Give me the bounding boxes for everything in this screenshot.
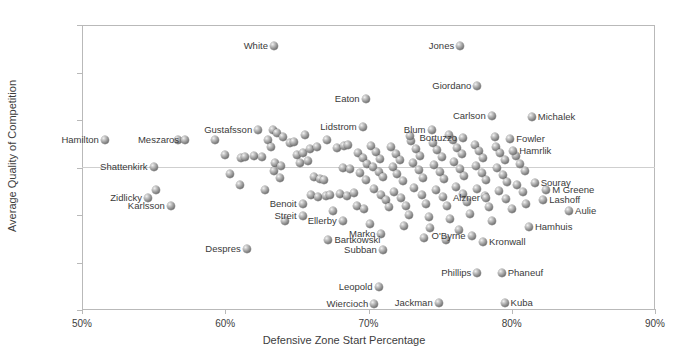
data-point-labeled (181, 136, 189, 144)
data-point (460, 172, 468, 180)
data-point (502, 195, 510, 203)
data-point-labeled (150, 163, 158, 171)
data-point-labeled (375, 283, 383, 291)
x-tick (655, 309, 656, 314)
data-point (350, 189, 358, 197)
data-point-labeled (459, 134, 467, 142)
data-point (360, 205, 368, 213)
point-label: Marko (349, 229, 375, 239)
data-point-labeled (482, 194, 490, 202)
y-tick (77, 25, 82, 26)
data-point (466, 210, 474, 218)
data-point (410, 184, 418, 192)
data-point-labeled (468, 232, 476, 240)
point-label: Alzner (453, 193, 480, 203)
data-point (250, 152, 258, 160)
data-point-labeled (473, 82, 481, 90)
point-label: Aulie (575, 206, 596, 216)
point-label: Hamilton (61, 135, 99, 145)
data-point (258, 153, 266, 161)
data-point (458, 150, 466, 158)
point-label: Wiercioch (327, 299, 369, 309)
data-point (446, 215, 454, 223)
data-point (501, 156, 509, 164)
data-point (221, 151, 229, 159)
point-label: Gustafsson (204, 125, 252, 135)
x-axis-title: Defensive Zone Start Percentage (0, 334, 688, 346)
point-label: Shattenkirk (100, 162, 148, 172)
data-point (522, 200, 530, 208)
point-label: Eaton (335, 94, 360, 104)
data-point-labeled (456, 42, 464, 50)
data-point-labeled (565, 207, 573, 215)
data-point (519, 188, 527, 196)
data-point (440, 175, 448, 183)
data-point (277, 162, 285, 170)
data-point (226, 170, 234, 178)
data-point (301, 131, 309, 139)
point-label: Bortuzzo (420, 133, 458, 143)
data-point-labeled (488, 112, 496, 120)
data-point (422, 200, 430, 208)
data-point (304, 157, 312, 165)
data-point-labeled (525, 223, 533, 231)
data-point (452, 183, 460, 191)
point-label: Streit (274, 211, 296, 221)
point-label: Karlsson (128, 201, 165, 211)
point-label: Jackman (395, 298, 433, 308)
data-point-labeled (531, 179, 539, 187)
data-point (385, 203, 393, 211)
data-point (241, 153, 249, 161)
point-label: Meszaros (138, 135, 179, 145)
point-label: Kuba (511, 298, 533, 308)
point-label: Hamrlik (519, 146, 551, 156)
data-point-labeled (101, 136, 109, 144)
data-point-labeled (254, 126, 262, 134)
data-point (491, 133, 499, 141)
x-tick (82, 309, 83, 314)
data-point (438, 153, 446, 161)
data-point (405, 211, 413, 219)
data-point-labeled (243, 245, 251, 253)
data-point-labeled (359, 123, 367, 131)
point-label: Phaneuf (508, 268, 543, 278)
data-point (472, 162, 480, 170)
plot-area: -15-10-5051015 50%60%70%80%90% HamiltonS… (82, 25, 655, 310)
y-axis-title: Average Quality of Competition (6, 26, 18, 286)
data-point (402, 202, 410, 210)
data-point (396, 156, 404, 164)
data-point-labeled (528, 113, 536, 121)
data-point (443, 202, 451, 210)
data-point-labeled (473, 269, 481, 277)
data-point (439, 193, 447, 201)
x-tick-label: 90% (635, 319, 675, 329)
data-point-labeled (435, 299, 443, 307)
data-point (488, 217, 496, 225)
data-point-labeled (270, 42, 278, 50)
point-label: Phillips (441, 268, 471, 278)
data-point (313, 143, 321, 151)
data-point-labeled (167, 202, 175, 210)
data-point (326, 191, 334, 199)
y-tick (77, 263, 82, 264)
point-label: Despres (205, 244, 240, 254)
x-tick (225, 309, 226, 314)
data-point-labeled (479, 238, 487, 246)
data-point (400, 222, 408, 230)
point-label: Jones (429, 41, 454, 51)
y-tick (77, 73, 82, 74)
data-point (362, 176, 370, 184)
data-point (495, 187, 503, 195)
x-tick-label: 80% (492, 319, 532, 329)
point-label: Hamhuis (535, 222, 573, 232)
point-label: Lidstrom (320, 122, 356, 132)
data-point (513, 181, 521, 189)
data-point (279, 133, 287, 141)
data-point (236, 181, 244, 189)
data-point (521, 167, 529, 175)
data-point (323, 136, 331, 144)
data-point (420, 234, 428, 242)
data-point (344, 141, 352, 149)
data-point (503, 178, 511, 186)
data-point (376, 155, 384, 163)
